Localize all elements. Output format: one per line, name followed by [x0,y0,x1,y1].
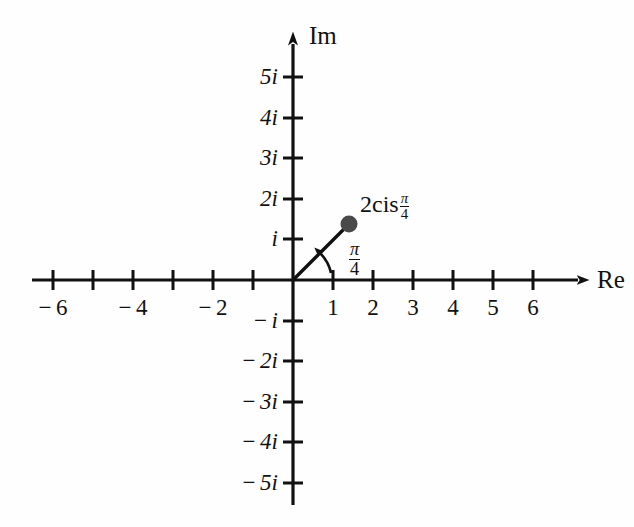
tick-label-re-6: 6 [527,296,539,319]
tick-label-im-4i: 4i [260,106,278,129]
angle-annotation-numerator: π [349,240,360,260]
tick-label-im-neg-i: − i [254,309,278,332]
point-annotation-fraction: π4 [400,191,409,222]
point-annotation-denominator: 4 [400,207,409,222]
plot-canvas [0,0,634,527]
tick-label-re-2: 2 [367,296,379,319]
tick-label-im-neg-3i: − 3i [243,390,278,413]
argand-diagram-figure: Im Re − 6 − 4 − 2 1 2 3 4 5 6 5i 4i 3i 2… [0,0,634,527]
angle-annotation-label: π4 [348,240,360,279]
tick-label-im-neg-4i: − 4i [243,430,278,453]
tick-label-re-neg2: − 2 [198,296,227,319]
tick-label-im-2i: 2i [260,187,278,210]
point-annotation-prefix: 2cis [360,192,399,216]
tick-label-im-i: i [272,227,278,250]
point-annotation-numerator: π [400,191,409,207]
tick-label-re-1: 1 [327,296,339,319]
tick-label-re-neg6: − 6 [38,296,67,319]
tick-label-im-5i: 5i [260,65,278,88]
angle-annotation-fraction: π4 [349,240,360,279]
real-axis-label: Re [597,267,625,292]
angle-annotation-denominator: 4 [349,260,360,279]
tick-label-re-4: 4 [447,296,459,319]
tick-label-im-neg-5i: − 5i [243,471,278,494]
imaginary-axis-label: Im [309,23,337,48]
tick-label-re-5: 5 [487,296,499,319]
point-annotation-label: 2cisπ4 [360,188,409,219]
tick-label-im-3i: 3i [260,146,278,169]
complex-number-point [341,216,358,233]
argument-arc [320,253,331,273]
tick-label-re-3: 3 [407,296,419,319]
tick-label-re-neg4: − 4 [118,296,147,319]
tick-label-im-neg-2i: − 2i [243,349,278,372]
